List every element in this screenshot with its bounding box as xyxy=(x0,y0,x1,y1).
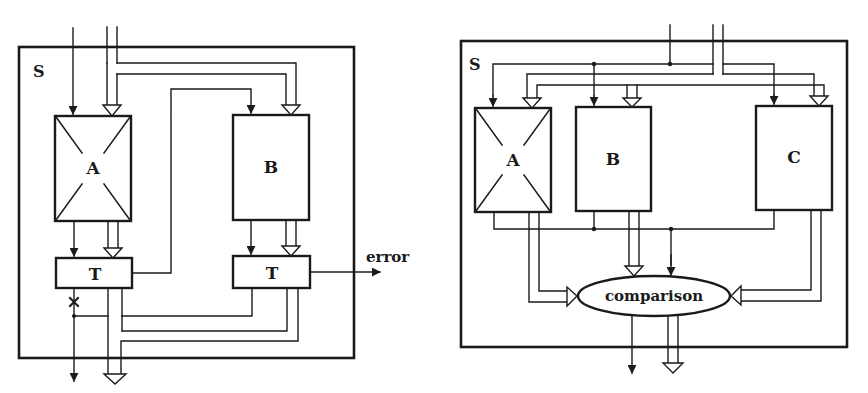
right-module-a-label: A xyxy=(506,152,519,169)
comparison-label: comparison xyxy=(605,289,703,304)
diagram-canvas xyxy=(0,0,868,393)
right-diagram xyxy=(461,25,847,373)
left-module-a-label: A xyxy=(86,160,99,177)
right-module-b-label: B xyxy=(606,151,620,168)
left-a-data-arrow-icon xyxy=(103,105,121,116)
error-output-label: error xyxy=(366,250,409,265)
right-system-label: S xyxy=(469,57,481,73)
left-tester-2-label: T xyxy=(266,265,279,282)
right-output-data-arrow-icon xyxy=(663,363,683,373)
left-tester-1-label: T xyxy=(89,266,102,283)
left-module-b-label: B xyxy=(264,159,278,176)
left-input-data-bus xyxy=(107,27,296,105)
left-diagram xyxy=(19,27,380,384)
right-module-c-label: C xyxy=(787,149,801,166)
left-output-data-arrow-icon xyxy=(104,374,126,384)
left-b-data-arrow-icon xyxy=(282,105,300,115)
left-system-label: S xyxy=(33,64,45,80)
